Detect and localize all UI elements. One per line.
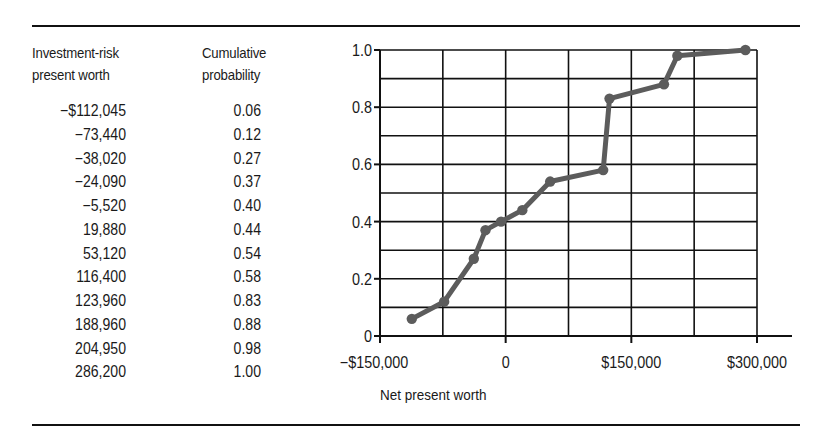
data-point-marker xyxy=(407,314,417,324)
data-series xyxy=(407,45,751,324)
data-point-marker xyxy=(517,205,527,215)
data-point-marker xyxy=(469,254,479,264)
data-point-marker xyxy=(740,45,750,55)
x-tick-label: −$150,000 xyxy=(340,353,408,371)
chart-axes xyxy=(374,50,792,343)
y-tick-label: 0.2 xyxy=(352,270,372,288)
data-point-marker xyxy=(480,225,490,235)
data-point-marker xyxy=(598,165,608,175)
data-point-marker xyxy=(496,216,506,226)
data-point-marker xyxy=(545,176,555,186)
y-tick-label: 0.6 xyxy=(352,156,372,174)
tick-labels: 00.20.40.60.81.0−$150,0000$150,000$300,0… xyxy=(340,41,787,371)
y-tick-label: 0 xyxy=(364,327,372,345)
x-tick-label: $300,000 xyxy=(727,353,787,371)
y-tick-label: 0.8 xyxy=(352,98,372,116)
y-tick-label: 0.4 xyxy=(352,213,373,231)
x-tick-label: $150,000 xyxy=(601,353,661,371)
data-point-marker xyxy=(604,93,614,103)
cumulative-probability-chart: 00.20.40.60.81.0−$150,0000$150,000$300,0… xyxy=(0,0,819,443)
chart-grid xyxy=(380,50,757,336)
data-point-marker xyxy=(672,51,682,61)
x-axis-title: Net present worth xyxy=(380,386,486,403)
data-point-marker xyxy=(439,296,449,306)
bottom-rule xyxy=(32,424,800,426)
data-point-marker xyxy=(659,79,669,89)
x-tick-label: 0 xyxy=(502,353,510,371)
y-tick-label: 1.0 xyxy=(352,41,372,59)
